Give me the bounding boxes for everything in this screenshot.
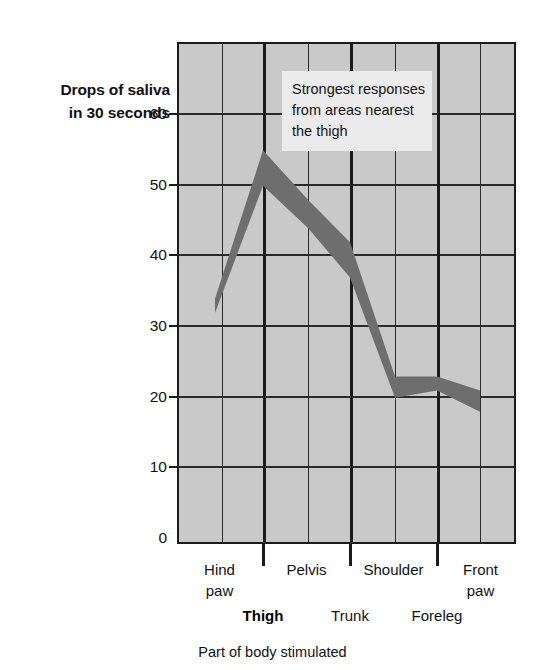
response-band-shape bbox=[215, 150, 480, 412]
x-label-hind-paw-line1: Hind bbox=[177, 559, 262, 580]
x-label-trunk: Trunk bbox=[309, 607, 391, 624]
y-tick-label-0: 0 bbox=[123, 529, 167, 547]
annotation-line1: Strongest responses bbox=[292, 79, 422, 100]
y-tick-label-60: 60 bbox=[123, 105, 167, 123]
x-label-hind-paw: Hind paw bbox=[177, 559, 262, 601]
annotation-line3: the thigh bbox=[292, 121, 422, 142]
plot-area: Strongest responses from areas nearest t… bbox=[177, 42, 516, 544]
x-label-shoulder: Shoulder bbox=[351, 559, 436, 580]
annotation-callout: Strongest responses from areas nearest t… bbox=[282, 71, 432, 151]
annotation-line2: from areas nearest bbox=[292, 100, 422, 121]
saliva-response-chart: Drops of saliva in 30 seconds 60 50 40 3… bbox=[0, 0, 545, 670]
y-axis-title-line1: Drops of saliva bbox=[10, 78, 170, 101]
x-label-front-paw: Front paw bbox=[438, 559, 523, 601]
x-label-front-paw-line1: Front bbox=[438, 559, 523, 580]
x-axis-title: Part of body stimulated bbox=[0, 644, 545, 660]
y-tick-label-50: 50 bbox=[123, 176, 167, 194]
x-label-shoulder-line1: Shoulder bbox=[351, 559, 436, 580]
y-tick-label-20: 20 bbox=[123, 388, 167, 406]
x-label-foreleg: Foreleg bbox=[396, 607, 478, 624]
x-label-pelvis: Pelvis bbox=[264, 559, 349, 580]
x-label-pelvis-line1: Pelvis bbox=[264, 559, 349, 580]
y-tick-label-40: 40 bbox=[123, 246, 167, 264]
y-tick-label-10: 10 bbox=[123, 458, 167, 476]
x-label-thigh: Thigh bbox=[222, 607, 304, 624]
y-tick-label-30: 30 bbox=[123, 317, 167, 335]
x-label-front-paw-line2: paw bbox=[438, 580, 523, 601]
x-label-hind-paw-line2: paw bbox=[177, 580, 262, 601]
